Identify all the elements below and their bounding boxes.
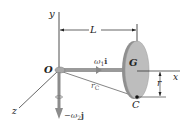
position-vector-label: rC: [91, 82, 99, 91]
radius-arrowhead-bottom: [159, 92, 162, 96]
position-vector-subscript: C: [95, 84, 100, 91]
radius-arrowhead-top: [159, 72, 162, 76]
origin-label: O: [44, 65, 53, 75]
omega2-arrowhead-icon: [55, 108, 63, 119]
length-label: L: [90, 25, 97, 35]
omega1-label: ω1i: [94, 57, 107, 67]
x-axis-label: x: [173, 73, 178, 82]
length-arrowhead-right: [132, 29, 136, 32]
omega2-arrow-shaft: [58, 72, 61, 110]
radius-label: r: [157, 79, 161, 88]
center-g-label: G: [129, 58, 138, 68]
omega2-direction: j: [81, 110, 84, 120]
shaft: [59, 68, 127, 72]
z-axis-label: z: [12, 107, 17, 116]
length-arrowhead-left: [60, 29, 64, 32]
diagram: y L O ω1i G x r C rC z −ω2j: [0, 0, 191, 127]
omega2-symbol: −ω: [64, 111, 77, 120]
y-axis-label: y: [49, 9, 55, 19]
disk-face: [125, 41, 149, 99]
omega1-direction: i: [104, 56, 107, 66]
omega2-label: −ω2j: [64, 111, 84, 121]
point-c-label: C: [132, 100, 140, 110]
z-axis-line: [19, 70, 59, 108]
omega1-arrowhead-icon: [96, 66, 102, 74]
